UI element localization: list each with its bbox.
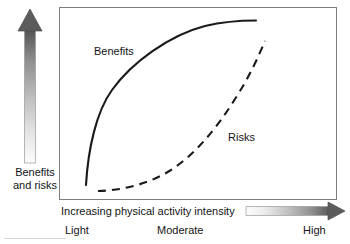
up-arrow-gradient-icon	[18, 9, 42, 163]
x-tick-label-high: High	[303, 224, 326, 237]
x-axis-label: Increasing physical activity intensity	[61, 205, 235, 218]
x-tick-label-light: Light	[65, 224, 89, 237]
figure-container: Benefits Risks Benefits and risks Increa…	[0, 0, 350, 244]
bottom-rule-divider	[4, 238, 66, 239]
benefits-series-label: Benefits	[94, 45, 134, 58]
y-axis-label-line1: Benefits	[7, 166, 63, 179]
y-axis-label-line2: and risks	[7, 179, 63, 192]
plot-area-border	[59, 7, 337, 200]
right-arrow-gradient-icon	[246, 202, 345, 220]
x-tick-label-moderate: Moderate	[157, 224, 203, 237]
risks-series-label: Risks	[228, 131, 255, 144]
y-axis-label: Benefits and risks	[7, 166, 63, 192]
